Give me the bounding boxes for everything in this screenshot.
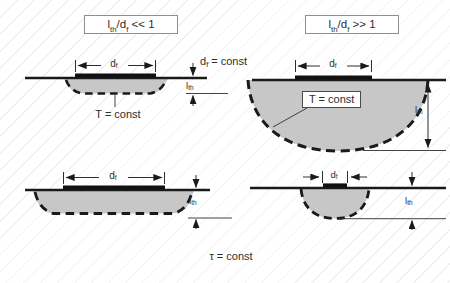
pulse-duration-constant-label: τ = const bbox=[185, 251, 277, 262]
condition-left-text: lth/df << 1 bbox=[107, 18, 154, 30]
thermal-depth-dim-label-bottom-left: lth bbox=[189, 196, 197, 207]
heated-region bbox=[33, 191, 194, 214]
thermal-depth-dim-label-bottom-right: lth bbox=[405, 196, 413, 207]
isotherm-label-top-right: T = const bbox=[302, 91, 361, 108]
condition-right-text: lth/df >> 1 bbox=[328, 18, 375, 30]
diagram-graphics bbox=[0, 0, 450, 283]
film-diameter-constant-label: df = const bbox=[200, 56, 247, 68]
thermal-depth-dim-label-top-right: lth bbox=[415, 105, 423, 116]
panel-bottom-left bbox=[25, 172, 232, 229]
film-diameter-dim-label-bottom-right: df bbox=[325, 170, 343, 181]
panel-top-left bbox=[25, 60, 228, 107]
condition-box-left: lth/df << 1 bbox=[84, 15, 178, 34]
heated-region bbox=[301, 189, 369, 219]
film-diameter-dim-label-top-left: df bbox=[103, 59, 125, 70]
heated-region bbox=[64, 79, 168, 94]
film-diameter-dim-label-bottom-left: df bbox=[102, 171, 124, 182]
thermal-depth-dim-label-top-left: lth bbox=[186, 81, 194, 92]
isotherm-label-top-left: T = const bbox=[85, 109, 151, 120]
film-diameter-dim-label-top-right: df bbox=[322, 59, 344, 70]
condition-box-right: lth/df >> 1 bbox=[305, 15, 399, 34]
figure-canvas: lth/df << 1 lth/df >> 1 df = const T = c… bbox=[0, 0, 450, 283]
panel-bottom-right bbox=[250, 171, 446, 230]
